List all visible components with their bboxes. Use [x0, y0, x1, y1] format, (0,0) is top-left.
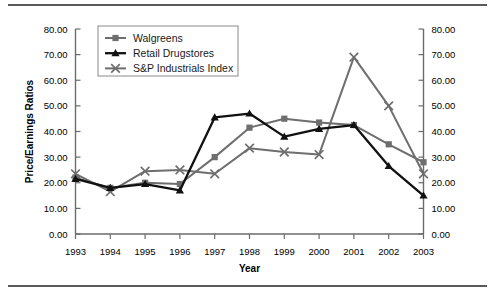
- y-tick-label-right: 60.00: [432, 75, 456, 86]
- data-point-cross: [384, 102, 393, 111]
- data-point-square: [281, 116, 287, 122]
- y-tick-label-left: 60.00: [44, 75, 68, 86]
- x-tick-label: 1993: [65, 246, 86, 257]
- x-tick-label: 2000: [309, 246, 330, 257]
- x-tick-label: 1995: [135, 246, 156, 257]
- y-tick-label-right: 10.00: [432, 203, 456, 214]
- data-point-square: [212, 154, 218, 160]
- data-point-square: [316, 119, 322, 125]
- legend-label: Walgreens: [133, 32, 183, 44]
- legend-label: Retail Drugstores: [133, 47, 214, 59]
- x-tick-label: 1999: [274, 246, 295, 257]
- y-tick-label-right: 40.00: [432, 126, 456, 137]
- data-point-cross: [350, 53, 359, 62]
- y-tick-label-left: 50.00: [44, 100, 68, 111]
- y-axis-title: Price/Earnings Ratios: [24, 79, 35, 183]
- y-tick-label-right: 50.00: [432, 100, 456, 111]
- legend-label: S&P Industrials Index: [133, 62, 234, 74]
- y-tick-label-left: 80.00: [44, 24, 68, 35]
- x-tick-label: 1998: [239, 246, 260, 257]
- x-tick-label: 1994: [100, 246, 121, 257]
- x-tick-label: 1996: [169, 246, 190, 257]
- x-tick-label: 2002: [378, 246, 399, 257]
- y-tick-label-right: 80.00: [432, 24, 456, 35]
- x-tick-label: 2001: [343, 246, 364, 257]
- series-retail-drugstores: [71, 109, 427, 198]
- y-tick-label-right: 0.00: [432, 229, 451, 240]
- y-tick-label-left: 0.00: [49, 229, 68, 240]
- chart-legend: WalgreensRetail DrugstoresS&P Industrial…: [98, 26, 238, 76]
- x-axis-title: Year: [239, 263, 260, 274]
- y-tick-label-right: 20.00: [432, 177, 456, 188]
- y-tick-label-left: 30.00: [44, 152, 68, 163]
- chart-text-labels: 0.000.0010.0010.0020.0020.0030.0030.0040…: [24, 24, 455, 275]
- y-tick-label-left: 10.00: [44, 203, 68, 214]
- y-tick-label-right: 70.00: [432, 49, 456, 60]
- data-point-square: [386, 141, 392, 147]
- y-tick-label-left: 40.00: [44, 126, 68, 137]
- data-point-square: [420, 159, 426, 165]
- y-tick-label-right: 30.00: [432, 152, 456, 163]
- x-tick-label: 1997: [204, 246, 225, 257]
- series-line: [76, 57, 424, 192]
- data-point-square: [246, 125, 252, 131]
- y-tick-label-left: 20.00: [44, 177, 68, 188]
- line-chart-plot: 0.000.0010.0010.0020.0020.0030.0030.0040…: [0, 0, 495, 301]
- x-tick-label: 2003: [413, 246, 434, 257]
- series-walgreens: [72, 116, 426, 191]
- y-tick-label-left: 70.00: [44, 49, 68, 60]
- data-point-square: [112, 35, 118, 41]
- chart-figure: 0.000.0010.0010.0020.0020.0030.0030.0040…: [0, 0, 495, 301]
